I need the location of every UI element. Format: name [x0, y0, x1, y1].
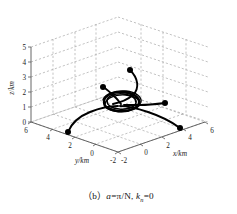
endpoint-marker [65, 129, 71, 135]
z-tick-label: 0 [22, 119, 26, 127]
endpoint-marker [177, 125, 183, 131]
y-axis-label: y/km [74, 156, 90, 165]
endpoint-marker [162, 100, 168, 106]
z-tick-label: 3 [22, 74, 26, 82]
figure-caption: （b）a=π/N, kn=0 [0, 188, 237, 203]
z-tick-label: 2 [22, 89, 26, 97]
z-tick-label: 5 [22, 44, 26, 52]
z-tick-label: 4 [22, 59, 26, 67]
y-tick-label: 4 [46, 134, 50, 142]
y-tick-label: 2 [68, 142, 72, 150]
y-tick-label: 6 [24, 127, 28, 135]
caption-a-value: =π/N, [111, 191, 133, 201]
x-tick-label: 6 [210, 127, 214, 135]
x-tick-label: -2 [121, 157, 127, 165]
x-axis-label: x/km [172, 149, 188, 158]
plot-svg: 5 4 3 2 1 0 6 4 2 0 -2 [0, 0, 237, 214]
x-tick-label: 4 [188, 134, 192, 142]
figure-3d-trajectory-plot: 5 4 3 2 1 0 6 4 2 0 -2 [0, 0, 237, 214]
caption-panel-label: （b） [83, 191, 106, 201]
x-tick-label: 0 [144, 149, 148, 157]
z-axis-tick-labels: 5 4 3 2 1 0 [22, 44, 26, 127]
y-tick-label: 0 [90, 150, 94, 158]
endpoint-marker [127, 67, 133, 73]
caption-k-value: =0 [144, 191, 154, 201]
y-tick-label: -2 [110, 157, 116, 165]
x-tick-label: 2 [166, 142, 170, 150]
z-axis-label: z/km [7, 81, 16, 96]
endpoint-marker [100, 84, 106, 90]
trajectory-curve [124, 103, 165, 105]
z-tick-label: 1 [22, 104, 26, 112]
